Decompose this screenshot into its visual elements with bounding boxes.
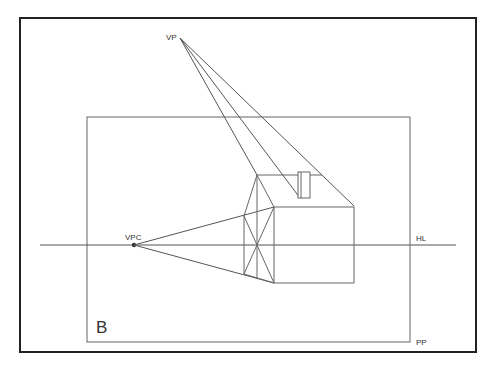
outer-frame xyxy=(20,18,476,352)
chimney xyxy=(298,172,310,198)
picture-plane-rect xyxy=(87,117,410,342)
vpc-label: VPC xyxy=(125,233,142,242)
perspective-diagram: VP VPC HL PP B xyxy=(0,0,486,368)
vp-line-chimney xyxy=(180,38,300,198)
vpc-line-bottom xyxy=(134,245,274,283)
vp-line-roof xyxy=(180,38,354,206)
side-cross-2 xyxy=(244,207,274,274)
side-wall-bottom xyxy=(244,274,274,283)
hl-label: HL xyxy=(416,234,427,243)
vp-line-gable xyxy=(180,38,257,175)
vpc-line-top xyxy=(134,207,274,245)
side-cross-1 xyxy=(244,216,274,283)
gable-left xyxy=(244,175,257,216)
gable-right xyxy=(257,175,274,207)
pp-label: PP xyxy=(416,338,427,347)
panel-letter: B xyxy=(96,318,107,337)
vp-label: VP xyxy=(166,33,177,42)
